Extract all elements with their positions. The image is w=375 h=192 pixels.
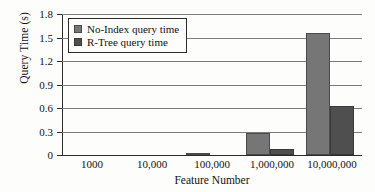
bar-group xyxy=(242,14,302,155)
legend-item: No-Index query time xyxy=(74,22,179,35)
y-tick-label: 0 xyxy=(13,150,53,160)
gridline xyxy=(62,155,362,156)
bar-group xyxy=(182,14,242,155)
bar xyxy=(330,106,354,155)
bar-group xyxy=(302,14,362,155)
legend-swatch-icon xyxy=(74,25,82,33)
x-axis-title: Feature Number xyxy=(62,174,362,187)
chart-legend: No-Index query timeR-Tree query time xyxy=(68,18,187,53)
legend-label: R-Tree query time xyxy=(87,36,168,48)
legend-label: No-Index query time xyxy=(87,23,179,35)
y-tick-label: 0.9 xyxy=(13,80,53,90)
y-tick-label: 0.3 xyxy=(13,127,53,137)
legend-swatch-icon xyxy=(74,38,82,46)
bar xyxy=(186,153,210,155)
y-tick-label: 1.5 xyxy=(13,33,53,43)
y-tick-label: 1.8 xyxy=(13,9,53,19)
y-tick-label: 1.2 xyxy=(13,56,53,66)
bar xyxy=(306,33,330,155)
x-tick-label: 10,000,000 xyxy=(292,158,372,170)
bar xyxy=(246,133,270,155)
legend-item: R-Tree query time xyxy=(74,35,179,48)
bar xyxy=(270,149,294,155)
bar-chart-figure: Query Time (s) 00.30.60.91.21.51.8 10001… xyxy=(0,0,375,192)
y-tick-label: 0.6 xyxy=(13,103,53,113)
